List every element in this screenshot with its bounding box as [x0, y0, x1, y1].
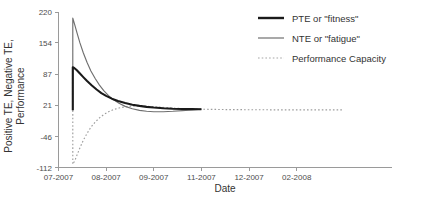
legend-label-0: PTE or "fitness"	[292, 13, 358, 24]
y-tick-label: -112	[37, 164, 53, 173]
x-axis-ticks: 07-200708-200709-200711-200712-200702-20…	[44, 168, 312, 183]
y-tick-label: -46	[40, 133, 52, 142]
x-axis-title: Date	[214, 183, 236, 194]
x-tick-label: 11-2007	[187, 173, 216, 182]
y-tick-label: 87	[43, 70, 52, 79]
chart-legend: PTE or "fitness"NTE or "fatigue"Performa…	[258, 13, 386, 64]
x-tick-label: 09-2007	[139, 173, 169, 182]
y-tick-label: 154	[39, 39, 53, 48]
legend-label-2: Performance Capacity	[292, 53, 386, 64]
chart-container: Positive TE, Negative TE, Performance 22…	[0, 0, 429, 200]
x-tick-label: 02-2008	[282, 173, 312, 182]
y-axis-ticks: 2201548721-46-112	[37, 8, 59, 173]
y-axis-title-line1: Positive TE, Negative TE,	[3, 39, 14, 153]
y-tick-label: 21	[43, 101, 52, 110]
y-tick-label: 220	[39, 8, 53, 17]
line-chart: Positive TE, Negative TE, Performance 22…	[0, 0, 429, 200]
x-tick-label: 08-2007	[91, 173, 121, 182]
series-line-perf	[73, 106, 342, 164]
x-tick-label: 07-2007	[44, 173, 74, 182]
y-axis-title-line2: Performance	[15, 67, 26, 125]
y-axis-title: Positive TE, Negative TE, Performance	[3, 39, 26, 153]
series-line-nte	[73, 18, 202, 112]
x-tick-label: 12-2007	[234, 173, 264, 182]
legend-label-1: NTE or "fatigue"	[292, 33, 360, 44]
